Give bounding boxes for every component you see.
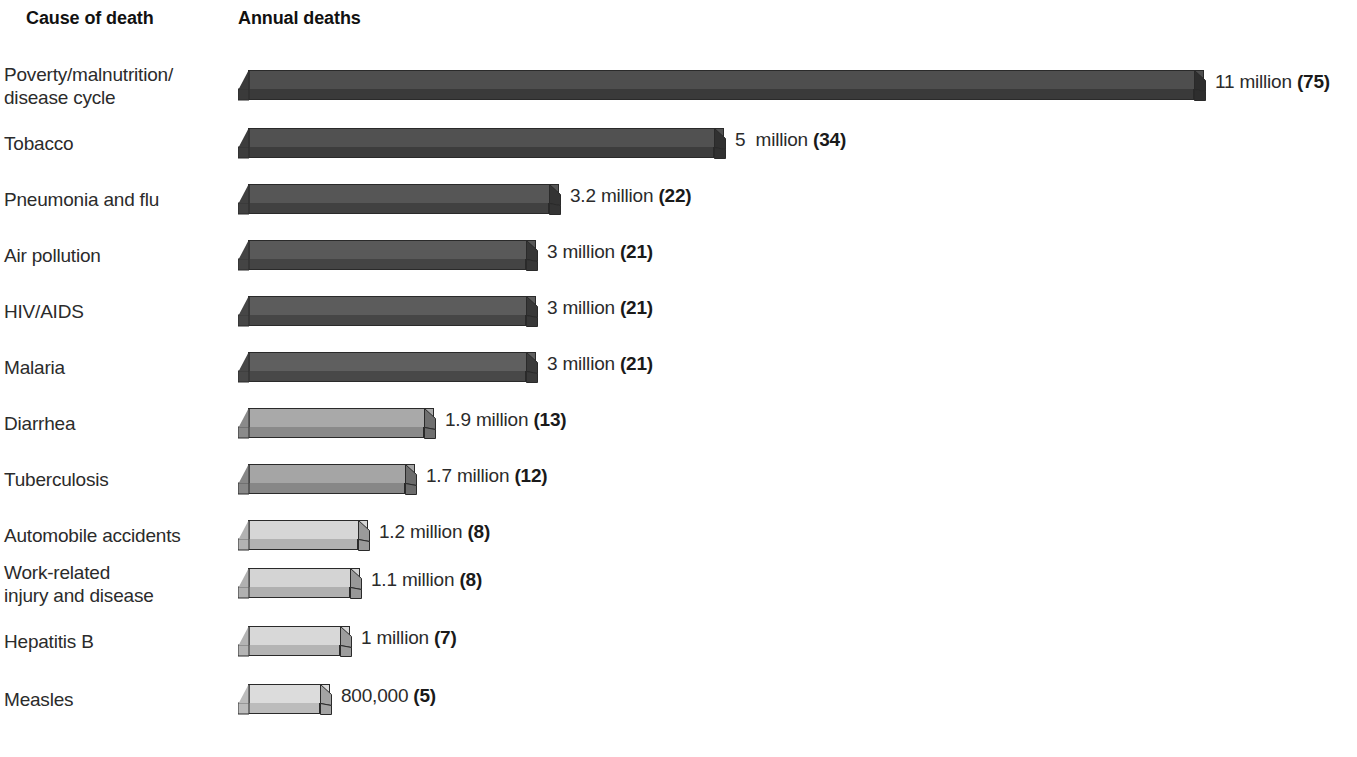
bar [238,568,361,608]
category-label: Pneumonia and flu [4,188,244,211]
value-label: 1.7 million (12) [426,464,547,487]
bar [238,464,416,504]
bar [238,240,537,280]
bar-top-face [248,520,368,540]
category-label: HIV/AIDS [4,300,244,323]
value-amount: 800,000 [341,685,413,706]
value-label: 3.2 million (22) [570,184,691,207]
value-amount: 1.1 million [371,569,459,590]
value-label: 1.1 million (8) [371,568,482,591]
value-rank: (13) [533,409,566,430]
category-label: Tobacco [4,132,244,155]
bar-left-bevel [238,296,249,326]
bar-front-face [238,703,320,714]
bar-top-face [248,408,434,428]
bar-top-face [248,240,536,260]
bar-front-face [238,203,549,214]
bar-front-face [238,539,358,550]
bar-end-cap [320,684,331,715]
bar [238,70,1205,110]
bar-top-face [248,352,536,372]
chart-row: Tobacco5 million (34) [0,120,1357,176]
bar-left-bevel [238,184,249,214]
value-rank: (21) [620,297,653,318]
bar-end-cap [526,296,537,327]
value-rank: (75) [1297,71,1330,92]
value-rank: (12) [514,465,547,486]
category-label: Malaria [4,356,244,379]
value-rank: (34) [813,129,846,150]
value-label: 3 million (21) [547,296,653,319]
value-amount: 3.2 million [570,185,658,206]
chart-row: Measles800,000 (5) [0,676,1357,732]
value-rank: (8) [467,521,490,542]
chart-row: Tuberculosis1.7 million (12) [0,456,1357,512]
chart-row: Poverty/malnutrition/ disease cycle11 mi… [0,62,1357,118]
bar-top-face [248,184,559,204]
bar-front-face [238,371,526,382]
value-amount: 1 million [361,627,434,648]
value-label: 1.9 million (13) [445,408,566,431]
category-label: Poverty/malnutrition/ disease cycle [4,63,244,109]
chart-row: Pneumonia and flu3.2 million (22) [0,176,1357,232]
value-rank: (8) [459,569,482,590]
bar-end-cap [358,520,369,551]
chart-row: Malaria3 million (21) [0,344,1357,400]
chart-row: Work-related injury and disease1.1 milli… [0,560,1357,616]
bar-top-face [248,568,360,588]
value-label: 1.2 million (8) [379,520,490,543]
bar-front-face [238,587,350,598]
bar-end-cap [549,184,560,215]
bar [238,296,537,336]
bar-top-face [248,128,724,148]
bar-left-bevel [238,240,249,270]
category-label: Diarrhea [4,412,244,435]
value-label: 3 million (21) [547,352,653,375]
bar [238,184,560,224]
bar-front-face [238,483,405,494]
bar-left-bevel [238,568,249,598]
bar [238,352,537,392]
value-rank: (5) [413,685,436,706]
category-label: Hepatitis B [4,630,244,653]
bar-front-face [238,147,714,158]
chart-root: Cause of death Annual deaths Poverty/mal… [0,0,1357,757]
value-rank: (22) [658,185,691,206]
bar [238,128,725,168]
bar [238,520,369,560]
value-amount: 3 million [547,297,620,318]
bar [238,626,351,666]
bar-left-bevel [238,352,249,382]
bar-end-cap [526,240,537,271]
bar-front-face [238,645,340,656]
value-label: 11 million (75) [1215,70,1330,93]
bar-end-cap [1194,70,1205,101]
bar-top-face [248,626,350,646]
column-header-cause-of-death: Cause of death [26,8,154,29]
value-amount: 3 million [547,353,620,374]
bar-front-face [238,427,424,438]
value-amount: 1.9 million [445,409,533,430]
bar-front-face [238,89,1194,100]
bar-end-cap [340,626,351,657]
chart-row: Diarrhea1.9 million (13) [0,400,1357,456]
chart-row: HIV/AIDS3 million (21) [0,288,1357,344]
category-label: Measles [4,688,244,711]
bar [238,684,331,724]
bar-left-bevel [238,626,249,656]
value-rank: (21) [620,353,653,374]
bar-left-bevel [238,520,249,550]
value-amount: 11 million [1215,71,1297,92]
bar-left-bevel [238,70,249,100]
value-label: 3 million (21) [547,240,653,263]
category-label: Work-related injury and disease [4,561,244,607]
column-header-annual-deaths: Annual deaths [238,8,361,29]
bar-top-face [248,70,1204,90]
bar-top-face [248,684,330,704]
value-amount: 5 million [735,129,813,150]
category-label: Automobile accidents [4,524,244,547]
bar-end-cap [526,352,537,383]
bar-left-bevel [238,464,249,494]
category-label: Tuberculosis [4,468,244,491]
chart-row: Hepatitis B1 million (7) [0,618,1357,674]
